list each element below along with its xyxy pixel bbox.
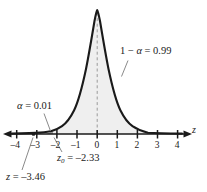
axis-arrow-right-icon	[184, 131, 193, 138]
tick-label-plus-3: 3	[155, 141, 160, 151]
tick-label-minus-4: –4	[11, 141, 21, 151]
test-statistic-label: z = –3.46	[6, 172, 45, 183]
alpha-level-label: α = 0.01	[17, 101, 52, 112]
alpha-symbol: α	[17, 100, 23, 111]
tick-label-minus-2: –2	[51, 141, 61, 151]
alpha-value: 0.01	[34, 100, 52, 111]
tick-label-plus-2: 2	[135, 141, 140, 151]
confidence-level-label: 1 − α = 0.99	[120, 46, 171, 57]
confidence-minus: −	[128, 45, 134, 56]
axis-arrow-left-icon	[3, 131, 12, 138]
zstat-equals: =	[13, 171, 19, 182]
alpha-leader-line	[44, 114, 51, 132]
tick-label-zero: 0	[94, 141, 99, 151]
confidence-leader-line	[122, 61, 129, 77]
zstat-value: –3.46	[21, 171, 45, 182]
tick-label-minus-3: –3	[31, 141, 41, 151]
tick-label-minus-1: –1	[71, 141, 81, 151]
critical-value-label: z0 = –2.33	[57, 153, 99, 165]
test-statistic-dot	[32, 132, 36, 136]
tick-label-plus-1: 1	[115, 141, 120, 151]
normal-distribution-figure: –4 –3 –2 –1 0 1 2 3 4 z 1 − α = 0.99 α =…	[0, 0, 207, 192]
z-axis-label: z	[192, 125, 196, 135]
confidence-value: 0.99	[153, 45, 171, 56]
tick-label-plus-4: 4	[175, 141, 180, 151]
distribution-plot	[0, 0, 207, 192]
z0-value: –2.33	[76, 152, 100, 163]
